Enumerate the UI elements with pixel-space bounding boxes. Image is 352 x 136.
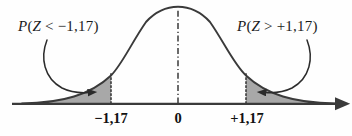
axis-tick-label-zero: 0: [174, 110, 181, 127]
right-probability-label: P(Z > +1,17): [237, 18, 318, 35]
right-label-close-paren: ): [312, 18, 317, 34]
left-label-prefix: P: [18, 18, 27, 34]
left-label-variable: Z: [33, 18, 42, 34]
axis-tick-label-negative: −1,17: [94, 110, 128, 127]
left-annotation-arrow: [44, 40, 89, 93]
normal-distribution-figure: P(Z < −1,17) P(Z > +1,17) −1,17 0 +1,17: [0, 0, 352, 136]
right-label-variable: Z: [252, 18, 261, 34]
left-label-operator: <: [41, 18, 58, 34]
left-label-value: −1,17: [58, 18, 94, 34]
right-annotation-arrow: [265, 40, 310, 93]
right-label-value: +1,17: [277, 18, 313, 34]
left-label-close-paren: ): [93, 18, 98, 34]
axis-tick-label-positive: +1,17: [230, 110, 264, 127]
right-label-prefix: P: [237, 18, 246, 34]
right-label-operator: >: [260, 18, 277, 34]
left-probability-label: P(Z < −1,17): [18, 18, 99, 35]
